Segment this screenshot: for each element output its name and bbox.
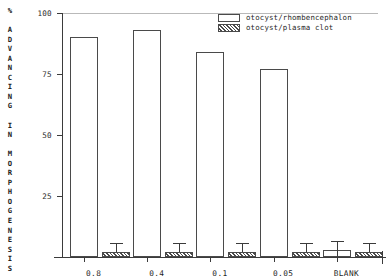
y-axis-title-char: N bbox=[2, 92, 18, 102]
y-axis-title-char: S bbox=[2, 264, 18, 274]
bar-otocyst-plasma-clot bbox=[228, 252, 256, 257]
error-bar-cap bbox=[236, 243, 249, 244]
y-axis-title-char: R bbox=[2, 168, 18, 178]
y-axis-title-char: G bbox=[2, 101, 18, 111]
bar-otocyst-rhombencephalon bbox=[133, 30, 161, 257]
y-axis-tick-label: 25 bbox=[0, 192, 52, 201]
y-axis-title-char: P bbox=[2, 178, 18, 188]
bar-otocyst-rhombencephalon bbox=[260, 69, 288, 257]
y-axis-title-char: G bbox=[2, 206, 18, 216]
error-bar bbox=[369, 243, 370, 252]
y-axis-title-char: I bbox=[2, 121, 18, 131]
chart-root: %.ADVANCING.IN.MORPHOGENESIS 255075100 0… bbox=[0, 0, 392, 280]
y-axis-tick-label: 50 bbox=[0, 131, 52, 140]
x-axis-tick bbox=[210, 257, 211, 262]
x-axis-tick bbox=[84, 257, 85, 262]
error-bar bbox=[306, 243, 307, 252]
chart-legend: otocyst/rhombencephalon otocyst/plasma c… bbox=[218, 13, 378, 35]
error-bar bbox=[116, 243, 117, 252]
y-axis-title-char: I bbox=[2, 254, 18, 264]
y-axis-tick-label: 75 bbox=[0, 70, 52, 79]
error-bar-cap bbox=[331, 241, 344, 242]
bar-otocyst-plasma-clot bbox=[165, 252, 193, 257]
y-axis-title-char: S bbox=[2, 245, 18, 255]
x-axis-tick bbox=[337, 257, 338, 262]
error-bar-cap bbox=[363, 243, 376, 244]
y-axis-title-char: M bbox=[2, 149, 18, 159]
x-axis-left-end-tick bbox=[54, 257, 62, 258]
x-axis-line bbox=[62, 257, 378, 258]
x-axis-tick-label: BLANK bbox=[305, 269, 388, 278]
legend-label: otocyst/plasma clot bbox=[246, 23, 333, 32]
error-bar-cap bbox=[300, 243, 313, 244]
y-axis-title-char: A bbox=[2, 54, 18, 64]
legend-swatch-hatched-box bbox=[218, 24, 240, 32]
error-bar bbox=[179, 243, 180, 252]
y-axis-tick bbox=[57, 13, 63, 14]
y-axis-title-char: I bbox=[2, 82, 18, 92]
x-axis-right-cap bbox=[382, 251, 383, 264]
y-axis-tick bbox=[57, 196, 63, 197]
legend-item-1: otocyst/plasma clot bbox=[218, 23, 378, 33]
y-axis-title-char: V bbox=[2, 44, 18, 54]
y-axis-title-char: D bbox=[2, 35, 18, 45]
x-axis-tick bbox=[274, 257, 275, 262]
y-axis-title-char: E bbox=[2, 216, 18, 226]
y-axis-title-char: N bbox=[2, 226, 18, 236]
error-bar bbox=[337, 241, 338, 257]
y-axis-title-char: A bbox=[2, 25, 18, 35]
legend-swatch-white-box bbox=[218, 14, 240, 22]
bar-otocyst-plasma-clot bbox=[292, 252, 320, 257]
y-axis-title-char: O bbox=[2, 159, 18, 169]
bar-otocyst-rhombencephalon bbox=[196, 52, 224, 257]
bar-otocyst-plasma-clot bbox=[102, 252, 130, 257]
x-axis-tick bbox=[147, 257, 148, 262]
y-axis-title-char: E bbox=[2, 235, 18, 245]
y-axis-tick-label: 100 bbox=[0, 9, 52, 18]
plot-area bbox=[62, 13, 378, 258]
error-bar-cap bbox=[173, 243, 186, 244]
y-axis-tick bbox=[57, 74, 63, 75]
legend-label: otocyst/rhombencephalon bbox=[246, 13, 352, 22]
error-bar-cap bbox=[110, 243, 123, 244]
y-axis-tick bbox=[57, 135, 63, 136]
bar-otocyst-rhombencephalon bbox=[70, 37, 98, 257]
error-bar bbox=[242, 243, 243, 252]
legend-item-0: otocyst/rhombencephalon bbox=[218, 13, 378, 23]
